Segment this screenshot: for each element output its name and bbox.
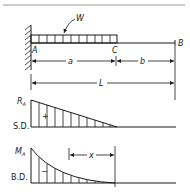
dimension-a-label: a <box>68 57 73 66</box>
cantilever-beam-diagram: W A C B a b L RA S.D. <box>0 0 190 196</box>
shear-sign: + <box>42 112 49 121</box>
point-c-label: C <box>112 46 118 55</box>
moment-diagram-label: B.D. <box>11 173 28 182</box>
moment-hatching <box>39 158 103 184</box>
dimension-x-label: x <box>88 151 94 160</box>
load-label: W <box>76 14 85 23</box>
distributed-load <box>31 35 117 43</box>
moment-sign: − <box>41 167 48 176</box>
moment-curve <box>31 148 115 183</box>
beam-section: W A C B a b L <box>25 14 184 100</box>
dimension-b-label: b <box>140 57 145 66</box>
shear-diagram: RA S.D. + <box>13 97 176 131</box>
moment-max-label: MA <box>15 147 26 157</box>
shear-max-label: RA <box>17 97 27 107</box>
load-leader-arrow-icon <box>64 19 75 33</box>
point-b-label: B <box>178 39 184 48</box>
shear-diagram-label: S.D. <box>13 122 29 131</box>
dimension-l-label: L <box>99 79 103 88</box>
moment-diagram: MA B.D. − x <box>11 146 176 187</box>
point-a-label: A <box>31 46 37 55</box>
fixed-wall-icon <box>25 25 31 70</box>
